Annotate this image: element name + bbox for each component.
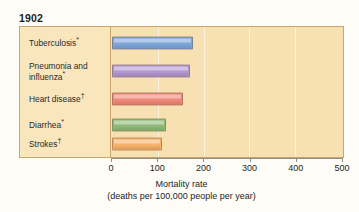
category-row: Strokes† (20, 131, 110, 157)
gridline-400 (295, 27, 296, 157)
category-label-strokes: Strokes† (29, 139, 109, 150)
category-row: Heart disease† (20, 86, 110, 112)
bar-highlight (114, 121, 164, 125)
figure-page: 1902 Tuberculosis* Pneumonia and influen… (0, 0, 359, 212)
bar-shadow (114, 147, 160, 150)
bar-highlight (114, 95, 181, 99)
x-tick-label-300: 300 (242, 163, 257, 173)
bar-shadow (114, 46, 191, 49)
x-axis-sublabel: (deaths per 100,000 people per year) (19, 191, 344, 201)
bar-shadow (114, 102, 181, 105)
gridline-200 (204, 27, 205, 157)
x-tick-0 (111, 158, 112, 162)
x-tick-label-400: 400 (288, 163, 303, 173)
gridline-300 (249, 27, 250, 157)
bar-diarrhea (112, 119, 166, 132)
x-axis-line (111, 158, 342, 159)
footnote-marker-dagger: † (81, 92, 85, 99)
footnote-marker-asterisk: * (63, 69, 66, 76)
x-axis: 0100200300400500 Mortality rate (deaths … (19, 158, 344, 212)
footnote-marker-asterisk: * (76, 36, 79, 43)
x-tick-label-0: 0 (108, 163, 113, 173)
chart-year-title: 1902 (19, 12, 43, 24)
category-label-diarrhea: Diarrhea* (29, 120, 109, 131)
category-label-tuberculosis: Tuberculosis* (29, 38, 109, 49)
category-label-heart-disease: Heart disease† (29, 94, 109, 105)
category-label-pneumonia-and-influenza: Pneumonia and influenza* (29, 61, 109, 82)
footnote-marker-asterisk: * (61, 118, 64, 125)
bar-shadow (114, 128, 164, 131)
x-tick-label-100: 100 (150, 163, 165, 173)
bar-highlight (114, 39, 191, 43)
x-axis-label: Mortality rate (19, 179, 344, 189)
bar-highlight (114, 140, 160, 144)
bar-highlight (114, 67, 188, 71)
x-tick-400 (296, 158, 297, 162)
x-tick-label-500: 500 (334, 163, 349, 173)
x-tick-100 (157, 158, 158, 162)
chart-figure-frame: Tuberculosis* Pneumonia and influenza* H… (19, 26, 344, 158)
category-label-panel: Tuberculosis* Pneumonia and influenza* H… (20, 27, 111, 157)
bar-heart-disease (112, 93, 183, 106)
x-tick-label-200: 200 (196, 163, 211, 173)
category-row: Tuberculosis* (20, 30, 110, 56)
footnote-marker-dagger: † (57, 137, 61, 144)
bar-strokes (112, 138, 162, 151)
bar-pneumonia-and-influenza (112, 65, 190, 78)
x-tick-200 (203, 158, 204, 162)
x-tick-500 (342, 158, 343, 162)
x-tick-300 (250, 158, 251, 162)
category-row: Pneumonia and influenza* (20, 56, 110, 86)
bar-tuberculosis (112, 37, 193, 50)
bar-shadow (114, 74, 188, 77)
